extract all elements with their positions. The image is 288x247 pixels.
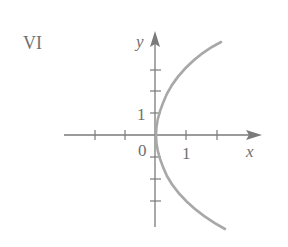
x-axis-label: x <box>246 143 254 160</box>
origin-label: 0 <box>138 142 147 159</box>
y-tick-label-1: 1 <box>137 106 146 123</box>
y-axis-label: y <box>136 33 144 50</box>
x-tick-label-1: 1 <box>182 145 191 162</box>
panel-label: VI <box>23 34 42 52</box>
